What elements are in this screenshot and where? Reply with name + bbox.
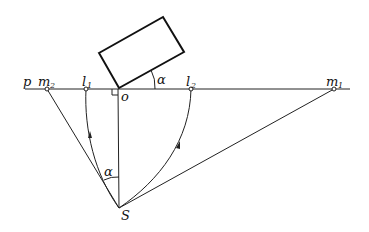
label-l2-sub: 2	[190, 81, 196, 90]
label-m1: m	[326, 74, 338, 89]
label-alpha-bottom: α	[104, 164, 113, 179]
label-m1-sub: 1	[338, 81, 343, 90]
label-l1-sub: 1	[87, 81, 92, 90]
label-m2: m	[38, 74, 50, 89]
right-angle-marker	[112, 89, 118, 95]
arc-s-l1	[86, 89, 119, 208]
label-p: p	[23, 74, 32, 89]
arc-s-l2	[119, 89, 191, 208]
label-o: o	[121, 89, 129, 104]
line-s-m1	[119, 89, 334, 208]
label-alpha-top: α	[157, 72, 166, 87]
plan-rectangle	[99, 17, 184, 88]
label-s: S	[121, 208, 130, 223]
label-l2: l	[186, 74, 190, 89]
label-l1: l	[82, 74, 86, 89]
label-m2-sub: 2	[49, 81, 55, 90]
line-o-s	[118, 89, 119, 208]
angle-arc-top	[151, 70, 155, 89]
perspective-diagram: p m 2 l 1 o α l 2 m 1 α S	[0, 0, 369, 232]
